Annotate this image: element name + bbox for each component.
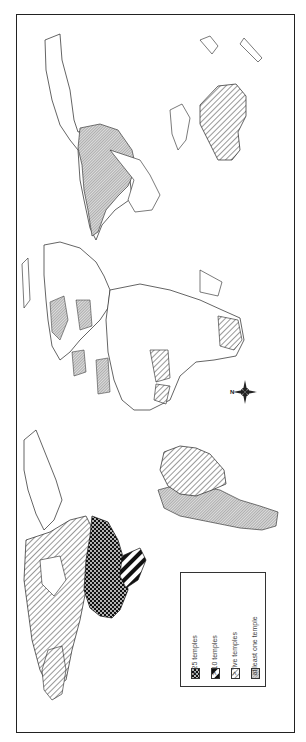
- compass-north-label: N: [230, 389, 234, 395]
- legend-label: > 10 temples: [211, 576, 218, 676]
- map-legend: > 25 temples > 10 temples > five temples…: [180, 572, 266, 687]
- legend-item-25-temples: > 25 temples: [191, 575, 205, 685]
- region-europe: [22, 242, 110, 394]
- region-mexico: [120, 548, 146, 588]
- region-australia: [200, 84, 246, 160]
- region-africa: [106, 270, 244, 410]
- legend-label: > five temples: [231, 576, 238, 676]
- compass-rose-icon: [233, 380, 257, 404]
- region-greenland: [24, 430, 62, 530]
- legend-item-five-temples: > five temples: [231, 575, 245, 685]
- legend-item-10-temples: > 10 temples: [211, 575, 225, 685]
- legend-item-at-least-one: at least one temple: [251, 575, 265, 685]
- legend-label: > 25 temples: [191, 576, 198, 676]
- legend-label: at least one temple: [251, 576, 258, 676]
